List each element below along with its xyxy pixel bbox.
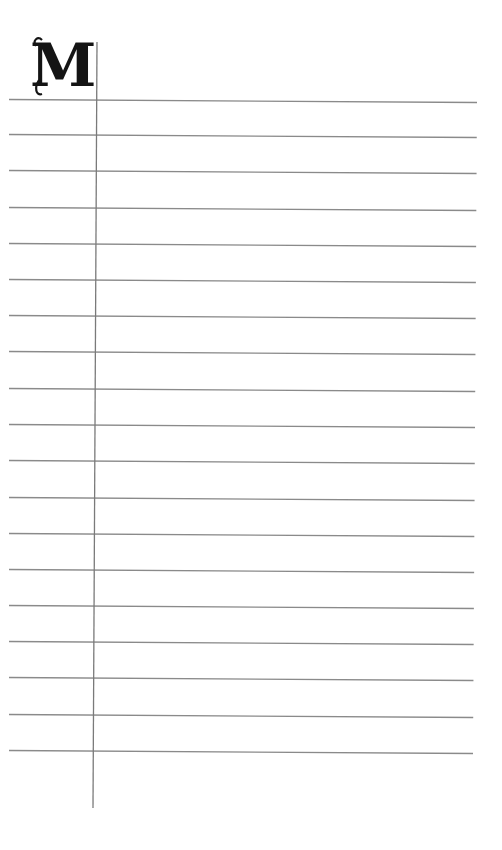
ruled-lines (0, 0, 502, 850)
ruled-line (9, 498, 475, 501)
ruled-line (9, 715, 473, 718)
ruled-line (9, 100, 477, 103)
ruled-line (9, 678, 473, 681)
ruled-line (9, 208, 476, 211)
ruled-line (9, 171, 477, 174)
ruled-line (9, 642, 474, 645)
ruled-line (9, 316, 476, 319)
ruled-line (9, 280, 476, 283)
ruled-line (9, 570, 474, 573)
ruled-line (9, 425, 475, 428)
ruled-line (9, 244, 476, 247)
ruled-line (9, 135, 477, 138)
ruled-page: M (0, 0, 502, 850)
ruled-line (9, 389, 475, 392)
ruled-line (9, 352, 475, 355)
ruled-line (9, 606, 474, 609)
ruled-line (9, 751, 473, 754)
ruled-line (9, 461, 475, 464)
ruled-line (9, 534, 474, 537)
